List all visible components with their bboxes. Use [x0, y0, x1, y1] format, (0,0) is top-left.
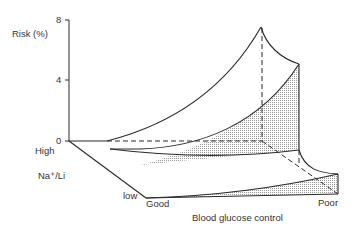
y-tick-4: 4	[56, 74, 61, 85]
x-poor-label: Poor	[318, 197, 338, 208]
y-tick-0: 0	[56, 135, 61, 146]
y-axis-label: Risk (%)	[12, 28, 48, 39]
x-axis-label: Blood glucose control	[192, 212, 283, 223]
y-axis	[65, 20, 69, 141]
risk-surface-diagram	[0, 0, 354, 232]
depth-low-label: low	[123, 190, 137, 201]
hidden-edges	[107, 28, 338, 194]
y-tick-8: 8	[56, 14, 61, 25]
depth-high-label: High	[35, 145, 55, 156]
upper-shaded-surface	[140, 64, 299, 165]
x-good-label: Good	[146, 198, 169, 209]
depth-axis-label: Na⁺/Li	[38, 170, 65, 181]
